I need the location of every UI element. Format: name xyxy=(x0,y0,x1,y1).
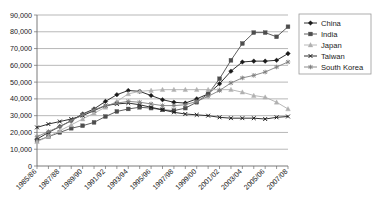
data-point-marker xyxy=(286,51,291,56)
data-point-marker xyxy=(172,103,177,108)
data-point-marker xyxy=(103,103,108,108)
y-axis-tick-label: 30,000 xyxy=(10,111,32,120)
line-chart: 010,00020,00030,00040,00050,00060,00070,… xyxy=(0,0,377,223)
legend-item-label: Japan xyxy=(321,41,342,50)
y-axis-labels-group: 010,00020,00030,00040,00050,00060,00070,… xyxy=(10,11,37,171)
y-axis-tick-label: 80,000 xyxy=(10,27,32,36)
x-axis-tick-label: 2001/02 xyxy=(196,167,221,192)
data-point-marker xyxy=(252,31,256,35)
x-axis-tick-label: 1993/94 xyxy=(105,167,130,192)
y-axis-tick-label: 50,000 xyxy=(10,78,32,87)
data-point-marker xyxy=(309,32,313,36)
y-axis-tick-label: 90,000 xyxy=(10,11,32,20)
data-point-marker xyxy=(183,102,188,107)
x-axis-tick-label: 1991/92 xyxy=(82,167,107,192)
x-axis-labels-group: 1985/861987/881989/901991/921993/941995/… xyxy=(14,167,290,192)
data-point-marker xyxy=(263,70,268,75)
data-point-marker xyxy=(92,120,96,124)
data-point-marker xyxy=(92,107,97,112)
chart-canvas: 010,00020,00030,00040,00050,00060,00070,… xyxy=(0,0,377,223)
legend-item-label: China xyxy=(321,19,342,28)
x-axis-tick-label: 1985/86 xyxy=(14,167,39,192)
data-point-marker xyxy=(194,99,199,104)
data-point-marker xyxy=(240,76,245,81)
data-point-marker xyxy=(126,99,131,104)
data-point-marker xyxy=(115,101,120,106)
data-point-marker xyxy=(46,129,51,134)
legend-item-label: India xyxy=(321,30,338,39)
data-point-marker xyxy=(160,97,165,102)
legend-item-label: South Korea xyxy=(321,63,364,72)
data-point-marker xyxy=(115,92,120,97)
series-line xyxy=(37,54,288,140)
data-point-marker xyxy=(104,115,108,119)
data-point-marker xyxy=(137,100,142,105)
legend-item-label: Taiwan xyxy=(321,52,345,61)
data-point-marker xyxy=(217,88,222,93)
data-point-marker xyxy=(251,73,256,78)
x-axis-tick-label: 1995/96 xyxy=(128,167,153,192)
data-point-marker xyxy=(115,110,119,114)
data-point-marker xyxy=(58,124,63,129)
series-line xyxy=(37,27,288,141)
data-point-marker xyxy=(274,65,279,70)
data-point-marker xyxy=(69,118,74,123)
data-point-marker xyxy=(286,107,291,111)
y-axis-tick-label: 20,000 xyxy=(10,128,32,137)
data-point-marker xyxy=(240,42,244,46)
data-point-marker xyxy=(286,60,291,65)
data-point-marker xyxy=(286,25,290,29)
x-axis-tick-label: 1989/90 xyxy=(59,167,84,192)
data-point-marker xyxy=(35,134,40,139)
data-point-marker xyxy=(149,93,154,98)
y-axis-tick-label: 40,000 xyxy=(10,94,32,103)
x-axis-tick-label: 1999/00 xyxy=(173,167,198,192)
data-point-marker xyxy=(275,35,279,39)
data-point-marker xyxy=(80,113,85,118)
y-axis-tick-label: 10,000 xyxy=(10,145,32,154)
data-point-marker xyxy=(263,31,267,35)
series-india xyxy=(35,25,290,143)
data-point-marker xyxy=(206,94,211,99)
x-axis-tick-label: 2003/04 xyxy=(219,167,244,192)
chart-legend: ChinaIndiaJapanTaiwanSouth Korea xyxy=(299,14,371,74)
data-point-marker xyxy=(149,102,154,107)
data-point-marker xyxy=(251,59,256,64)
x-axis-tick-label: 1987/88 xyxy=(36,167,61,192)
x-axis-tick-label: 2007/08 xyxy=(265,167,290,192)
x-axis-tick-label: 1997/98 xyxy=(151,167,176,192)
gridlines-group xyxy=(37,15,288,149)
data-point-marker xyxy=(308,65,313,70)
data-point-marker xyxy=(218,77,222,81)
data-point-marker xyxy=(69,122,74,126)
data-point-marker xyxy=(160,103,165,108)
data-point-marker xyxy=(229,81,234,86)
y-axis-tick-label: 60,000 xyxy=(10,61,32,70)
series-group xyxy=(35,25,291,144)
x-axis-tick-label: 2005/06 xyxy=(242,167,267,192)
data-point-marker xyxy=(81,124,85,128)
data-point-marker xyxy=(263,59,268,64)
data-point-marker xyxy=(103,99,108,104)
data-point-marker xyxy=(126,107,130,111)
data-point-marker xyxy=(229,58,233,62)
y-axis-tick-label: 70,000 xyxy=(10,44,32,53)
data-point-marker xyxy=(274,58,279,63)
